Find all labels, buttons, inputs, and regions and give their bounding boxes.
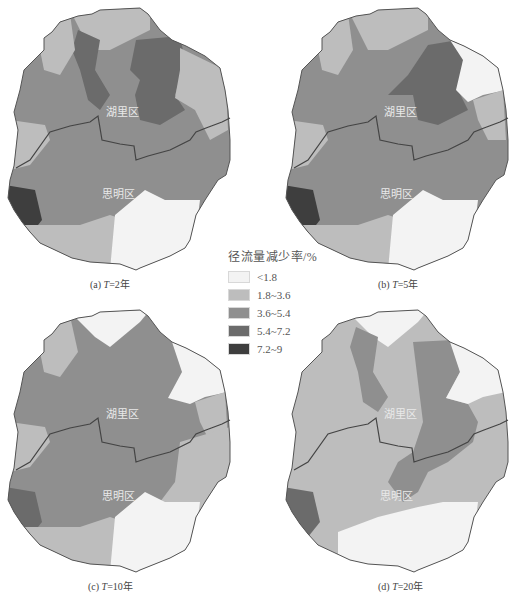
- legend-item: <1.8: [228, 269, 338, 285]
- legend-title: 径流量减少率/%: [228, 247, 338, 265]
- district-label-siming: 思明区: [102, 490, 135, 503]
- panel-caption-b: (b) T=5年: [378, 276, 418, 291]
- legend-swatch: [228, 289, 250, 301]
- map-panel-d: 湖里区 思明区 (d) T=20年: [278, 302, 518, 577]
- legend-label: 1.8~3.6: [257, 289, 290, 301]
- choropleth-map-a: 湖里区 思明区: [0, 0, 240, 275]
- choropleth-map-d: 湖里区 思明区: [278, 302, 518, 577]
- choropleth-map-b: 湖里区 思明区: [278, 0, 518, 275]
- district-label-huli: 湖里区: [384, 106, 417, 119]
- map-panel-a: 湖里区 思明区 (a) T=2年: [0, 0, 240, 275]
- panel-caption-d: (d) T=20年: [378, 578, 423, 593]
- district-label-siming: 思明区: [102, 188, 135, 201]
- legend-label: <1.8: [257, 271, 277, 283]
- choropleth-map-c: 湖里区 思明区: [0, 302, 240, 577]
- panel-caption-c: (c) T=10年: [88, 578, 133, 593]
- district-label-huli: 湖里区: [106, 106, 139, 119]
- district-label-huli: 湖里区: [384, 408, 417, 421]
- map-panel-b: 湖里区 思明区 (b) T=5年: [278, 0, 518, 275]
- legend-item: 1.8~3.6: [228, 287, 338, 303]
- legend-swatch: [228, 271, 250, 283]
- district-label-huli: 湖里区: [106, 408, 139, 421]
- panel-caption-a: (a) T=2年: [90, 276, 130, 291]
- district-label-siming: 思明区: [380, 188, 413, 201]
- map-panel-c: 湖里区 思明区 (c) T=10年: [0, 302, 240, 577]
- district-label-siming: 思明区: [380, 490, 413, 503]
